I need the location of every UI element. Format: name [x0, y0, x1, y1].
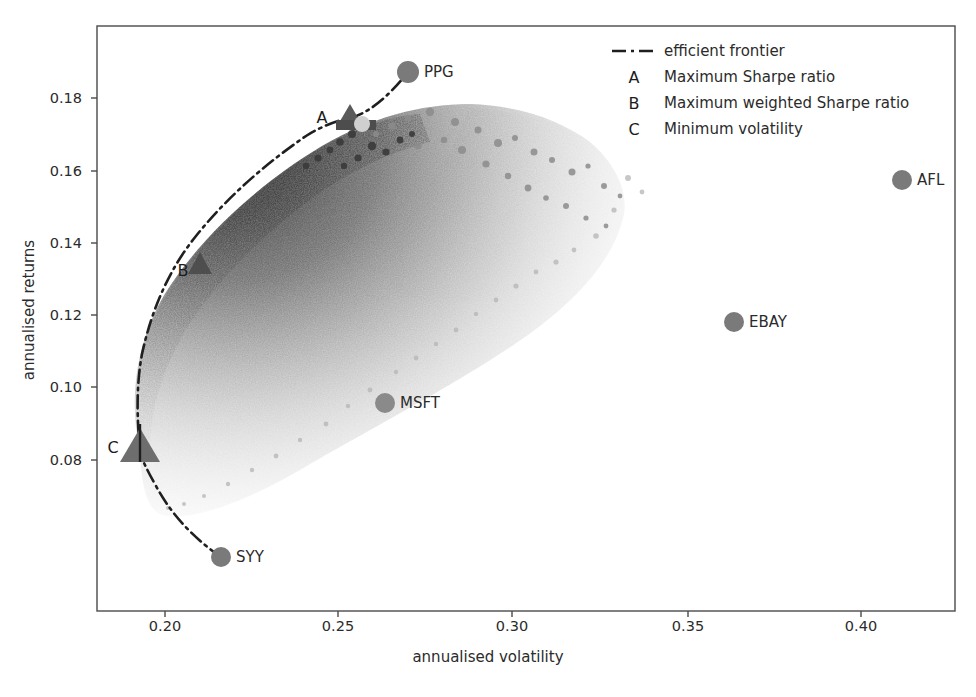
legend-row-efficient-frontier: efficient frontier: [604, 38, 936, 64]
x-axis-ticks: [165, 611, 861, 617]
marker-label-a: A: [317, 108, 328, 127]
ytick-label-5: 0.18: [20, 90, 82, 106]
marker-a-circle: [354, 116, 370, 132]
xtick-label-2: 0.30: [496, 618, 528, 634]
stock-marker-ppg: [397, 61, 419, 83]
stock-marker-ebay: [724, 312, 744, 332]
xtick-label-4: 0.40: [845, 618, 877, 634]
stock-marker-msft: [375, 393, 395, 413]
legend-key-c: C: [604, 120, 664, 139]
legend-label-c: Minimum volatility: [664, 120, 803, 138]
legend-label-a: Maximum Sharpe ratio: [664, 68, 835, 86]
point-label-afl: AFL: [917, 171, 944, 189]
x-axis-label: annualised volatility: [0, 648, 976, 666]
chart-legend: efficient frontier A Maximum Sharpe rati…: [596, 32, 944, 150]
efficient-frontier-chart: 0.20 0.25 0.30 0.35 0.40 0.08 0.10 0.12 …: [0, 0, 976, 697]
ytick-label-4: 0.16: [20, 163, 82, 179]
point-label-msft: MSFT: [400, 394, 440, 412]
dashdot-line-glyph: [611, 46, 657, 56]
legend-label-b: Maximum weighted Sharpe ratio: [664, 94, 909, 112]
point-label-ppg: PPG: [424, 63, 454, 81]
legend-row-a: A Maximum Sharpe ratio: [604, 64, 936, 90]
legend-label-efficient-frontier: efficient frontier: [664, 42, 785, 60]
y-axis-ticks: [91, 98, 97, 460]
marker-label-b: B: [178, 261, 189, 280]
ytick-label-0: 0.08: [20, 452, 82, 468]
marker-label-c: C: [107, 438, 118, 457]
xtick-label-1: 0.25: [322, 618, 354, 634]
point-label-syy: SYY: [236, 548, 264, 566]
stock-marker-afl: [892, 170, 912, 190]
point-label-ebay: EBAY: [749, 313, 787, 331]
stock-marker-syy: [211, 547, 231, 567]
legend-row-c: C Minimum volatility: [604, 116, 936, 142]
y-axis-label: annualised returns: [20, 210, 38, 410]
legend-key-a: A: [604, 68, 664, 87]
xtick-label-3: 0.35: [672, 618, 704, 634]
legend-row-b: B Maximum weighted Sharpe ratio: [604, 90, 936, 116]
xtick-label-0: 0.20: [149, 618, 181, 634]
legend-key-b: B: [604, 94, 664, 113]
dashdot-line-icon: [604, 46, 664, 56]
